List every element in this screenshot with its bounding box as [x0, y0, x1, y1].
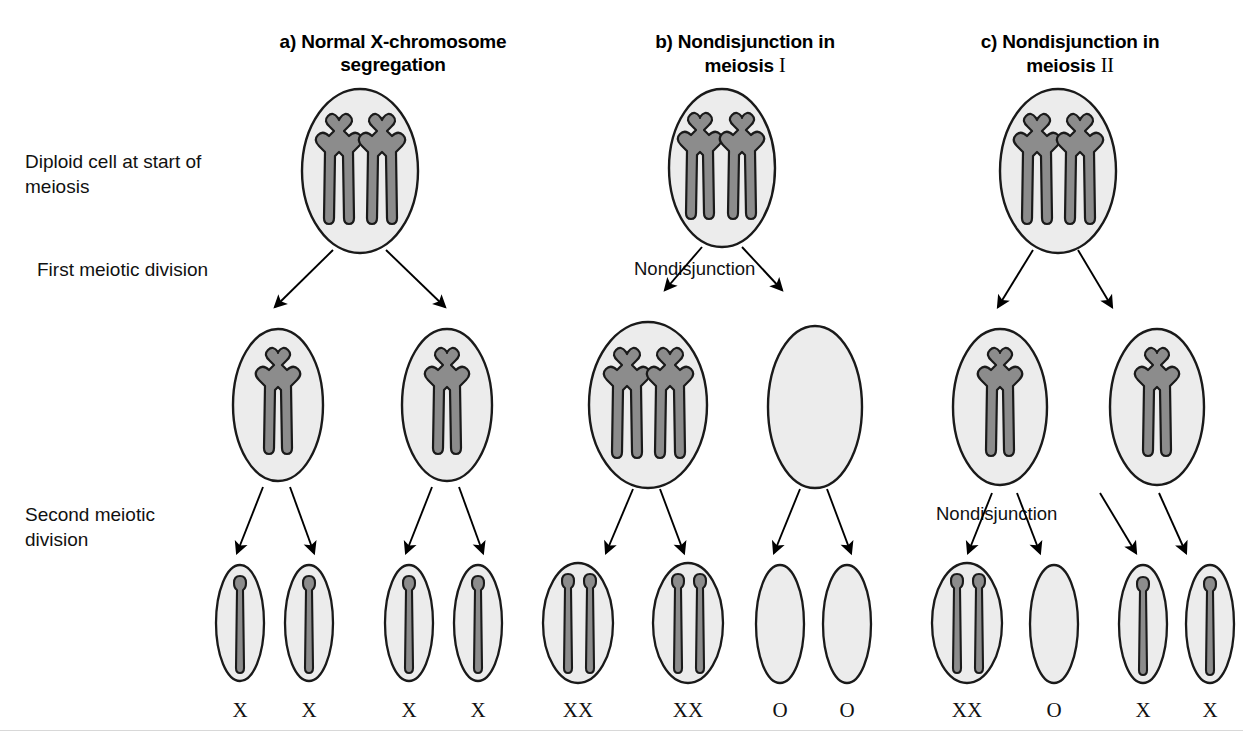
panel-b-gamete-1: [538, 560, 618, 686]
panel-c-title-line1: c) Nondisjunction in: [905, 30, 1235, 53]
panel-b-secondary-cell-right-empty: [760, 322, 870, 492]
panel-c-title-word: meiosis: [1026, 55, 1095, 76]
panel-c-roman-numeral: II: [1101, 54, 1114, 76]
figure-canvas: a) Normal X-chromosome segregation b) No…: [0, 0, 1243, 753]
row-label-first-line1: First meiotic division: [37, 258, 287, 283]
row-label-diploid-line2: meiosis: [25, 175, 265, 200]
panel-c-secondary-cell-right: [1103, 325, 1211, 489]
panel-b-gamete-label-3: O: [750, 698, 810, 723]
row-label-second-meiotic-division: Second meiotic division: [25, 503, 265, 552]
panel-b-title: b) Nondisjunction in meiosis I: [580, 30, 910, 78]
panel-b-gamete-label-2: XX: [658, 698, 718, 723]
panel-c-secondary-cell-left: [946, 325, 1054, 489]
panel-b-gamete-label-4: O: [817, 698, 877, 723]
panel-a-title-line2: segregation: [203, 53, 583, 76]
panel-c-gamete-4: [1181, 562, 1239, 686]
panel-c-title-line2: meiosis II: [905, 53, 1235, 77]
panel-b-nondisjunction-label: Nondisjunction: [634, 258, 755, 280]
panel-a-gamete-label-4: X: [448, 698, 508, 723]
panel-c-gamete-label-1: XX: [937, 698, 997, 723]
panel-b-roman-numeral: I: [779, 54, 785, 76]
figure-baseline-divider: [0, 730, 1243, 731]
panel-b-gamete-3: [751, 562, 809, 686]
panel-b-title-word: meiosis: [705, 55, 774, 76]
row-label-second-line2: division: [25, 528, 265, 553]
panel-c-gamete-3: [1114, 562, 1172, 686]
panel-a-secondary-cell-right: [395, 325, 499, 485]
panel-a-gamete-3: [380, 562, 438, 684]
panel-c-parent-cell: [992, 85, 1124, 257]
panel-c-gamete-1: [927, 560, 1007, 686]
panel-b-gamete-4: [818, 562, 876, 686]
panel-c-title: c) Nondisjunction in meiosis II: [905, 30, 1235, 78]
row-label-diploid-line1: Diploid cell at start of: [25, 150, 265, 175]
panel-a-gamete-1: [211, 562, 269, 684]
row-label-diploid-cell: Diploid cell at start of meiosis: [25, 150, 265, 199]
panel-a-gamete-label-1: X: [210, 698, 270, 723]
panel-b-parent-cell: [662, 85, 782, 251]
panel-b-title-line2: meiosis I: [580, 53, 910, 77]
panel-b-gamete-label-1: XX: [548, 698, 608, 723]
row-label-second-line1: Second meiotic: [25, 503, 265, 528]
panel-c-gamete-label-4: X: [1180, 698, 1240, 723]
panel-c-gamete-2: [1025, 562, 1083, 686]
panel-c-gamete-label-3: X: [1113, 698, 1173, 723]
panel-a-gamete-label-3: X: [379, 698, 439, 723]
row-label-first-meiotic-division: First meiotic division: [37, 258, 287, 283]
panel-a-gamete-4: [449, 562, 507, 684]
panel-a-title: a) Normal X-chromosome segregation: [203, 30, 583, 76]
panel-a-gamete-2: [280, 562, 338, 684]
panel-b-secondary-cell-left: [581, 318, 715, 492]
panel-b-title-line1: b) Nondisjunction in: [580, 30, 910, 53]
panel-c-gamete-label-2: O: [1024, 698, 1084, 723]
panel-a-parent-cell: [294, 85, 426, 257]
panel-a-secondary-cell-left: [226, 325, 330, 485]
panel-c-nondisjunction-label: Nondisjunction: [936, 503, 1057, 525]
panel-a-title-line1: a) Normal X-chromosome: [203, 30, 583, 53]
panel-a-gamete-label-2: X: [279, 698, 339, 723]
panel-b-gamete-2: [648, 560, 728, 686]
